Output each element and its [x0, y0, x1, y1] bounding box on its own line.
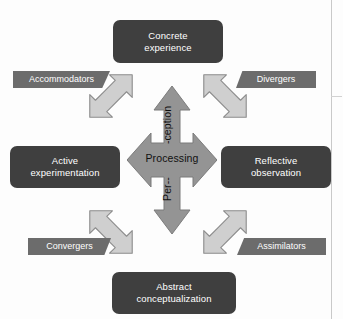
stage-box-reflective-observation[interactable]: Reflective observation — [221, 146, 331, 188]
page-edge-line — [331, 0, 332, 319]
stage-label-line1: Active — [30, 155, 99, 167]
stage-label-line2: observation — [251, 167, 301, 179]
style-label-accommodators[interactable]: Accommodators — [13, 71, 110, 88]
style-label-divergers[interactable]: Divergers — [236, 71, 316, 88]
stage-label-line1: Concrete — [144, 30, 191, 42]
style-label-convergers[interactable]: Convergers — [28, 238, 111, 255]
page-edge-tick — [331, 96, 342, 97]
stage-label-line2: conceptualization — [136, 293, 211, 305]
stage-box-abstract-conceptualization[interactable]: Abstract conceptualization — [112, 272, 236, 314]
style-label-assimilators[interactable]: Assimilators — [237, 238, 326, 255]
axis-label-perception-lower: Per-- — [161, 129, 173, 249]
diagram-canvas: Processing -ception Per-- Concrete exper… — [0, 0, 343, 319]
stage-label-line2: experimentation — [30, 167, 99, 179]
stage-box-active-experimentation[interactable]: Active experimentation — [10, 146, 120, 188]
stage-box-concrete-experience[interactable]: Concrete experience — [113, 20, 223, 63]
stage-label-line1: Abstract — [136, 281, 211, 293]
stage-label-line1: Reflective — [251, 155, 301, 167]
stage-label-line2: experience — [144, 42, 191, 54]
